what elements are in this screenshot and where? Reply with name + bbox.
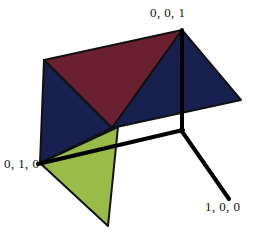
x-axis-label: 1, 0, 0	[205, 200, 240, 213]
x-axis-line	[181, 130, 229, 199]
z-axis-label: 0, 0, 1	[150, 6, 185, 19]
figure-canvas: 0, 0, 1 0, 1, 0 1, 0, 0	[0, 0, 274, 238]
y-axis-label: 0, 1, 0	[4, 157, 39, 170]
